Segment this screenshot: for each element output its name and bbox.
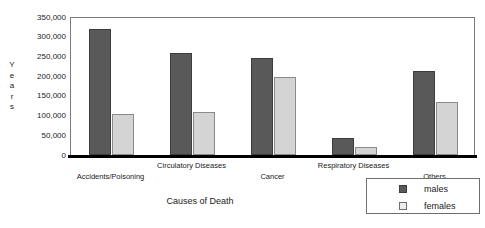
y-tick-label: 100,000 [22,111,66,120]
bar-males[interactable] [332,138,354,155]
bar-males[interactable] [251,58,273,155]
y-tick-label: 350,000 [22,13,66,22]
category-label: Respiratory Diseases [318,161,389,170]
category-label: Cancer [260,172,284,181]
y-tick-label: 300,000 [22,32,66,41]
bar-males[interactable] [89,29,111,155]
y-tick-label: 150,000 [22,91,66,100]
legend-label: females [424,201,456,211]
y-tick-label: 200,000 [22,72,66,81]
legend-item-females[interactable]: females [367,197,479,214]
bar-group [413,18,458,155]
bar-females[interactable] [112,114,134,155]
bar-females[interactable] [274,77,296,155]
bar-group [251,18,296,155]
y-tick-label: 0 [22,151,66,160]
legend-swatch-females [399,202,407,210]
category-label: Accidents/Poisoning [77,172,145,181]
bar-group [170,18,215,155]
x-axis-title: Causes of Death [0,196,400,206]
x-axis-baseline [68,155,477,158]
bar-females[interactable] [193,112,215,155]
chart-legend: malesfemales [366,178,480,214]
bar-males[interactable] [170,53,192,156]
plot-area [70,17,475,155]
y-axis-tick-labels: 350,000300,000250,000200,000150,000100,0… [22,0,66,228]
bar-females[interactable] [436,102,458,155]
bar-females[interactable] [355,147,377,155]
legend-swatch-males [399,185,407,193]
bar-group [332,18,377,155]
category-label: Circulatory Diseases [157,161,226,170]
legend-item-males[interactable]: males [367,180,479,197]
y-tick-label: 50,000 [22,131,66,140]
bar-males[interactable] [413,71,435,155]
y-axis-title: Y e a r s [5,60,19,113]
bar-group [89,18,134,155]
legend-label: males [424,184,448,194]
y-tick-label: 250,000 [22,52,66,61]
